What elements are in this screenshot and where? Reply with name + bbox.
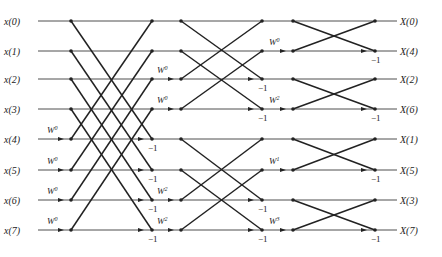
input-label-0: x(0): [3, 16, 21, 28]
node-dot: [373, 77, 377, 81]
twiddle-label: W0: [47, 156, 58, 166]
input-label-3: x(3): [3, 104, 21, 116]
node-dot: [150, 168, 154, 172]
arrow-icon: [138, 198, 144, 202]
twiddle-label: W0: [47, 216, 58, 226]
arrow-icon: [280, 107, 286, 111]
arrow-icon: [168, 198, 174, 202]
output-label-4: X(1): [399, 134, 418, 146]
node-dot: [260, 168, 264, 172]
node-dot: [291, 19, 295, 23]
node-dot: [373, 19, 377, 23]
output-label-7: X(7): [399, 225, 418, 237]
node-dot: [291, 168, 295, 172]
node-dot: [150, 198, 154, 202]
node-dot: [179, 19, 183, 23]
node-dot: [291, 198, 295, 202]
signal-labels: −1−1−1−1−1−1−1−1−1−1−1−1x(0)x(1)x(2)x(3)…: [3, 16, 418, 245]
fft-flow-graph: −1−1−1−1−1−1−1−1−1−1−1−1x(0)x(1)x(2)x(3)…: [0, 0, 442, 257]
twiddle-label: W0: [47, 125, 58, 135]
arrow-icon: [248, 228, 254, 232]
node-dot: [260, 228, 264, 232]
arrow-icon: [138, 228, 144, 232]
node-dot: [291, 137, 295, 141]
node-dot: [373, 137, 377, 141]
node-dot: [373, 198, 377, 202]
node-dot: [260, 137, 264, 141]
node-dot: [373, 228, 377, 232]
node-dot: [69, 19, 73, 23]
negation-label: −1: [148, 143, 158, 153]
twiddle-label: W0: [47, 186, 58, 196]
node-dot: [179, 107, 183, 111]
output-label-3: X(6): [399, 104, 418, 116]
negation-label: −1: [371, 113, 381, 123]
node-dot: [69, 198, 73, 202]
negation-label: −1: [258, 83, 268, 93]
node-dot: [69, 107, 73, 111]
twiddle-label: W2: [157, 216, 168, 226]
output-label-2: X(2): [399, 74, 418, 86]
node-dot: [260, 107, 264, 111]
node-dot: [69, 137, 73, 141]
node-dot: [150, 137, 154, 141]
arrow-icon: [138, 137, 144, 141]
node-dot: [150, 77, 154, 81]
node-dot: [373, 49, 377, 53]
arrow-icon: [280, 168, 286, 172]
output-label-6: X(3): [399, 195, 418, 207]
arrow-icon: [58, 228, 64, 232]
arrow-icon: [168, 77, 174, 81]
negation-label: −1: [148, 174, 158, 184]
node-dot: [260, 198, 264, 202]
arrow-icon: [248, 107, 254, 111]
node-dot: [69, 77, 73, 81]
input-label-1: x(1): [3, 46, 21, 58]
input-label-6: x(6): [3, 195, 21, 207]
twiddle-label: W0: [269, 37, 280, 47]
arrow-icon: [168, 107, 174, 111]
node-dot: [291, 49, 295, 53]
twiddle-label: W0: [157, 95, 168, 105]
arrow-icon: [280, 228, 286, 232]
node-dot: [291, 228, 295, 232]
input-label-4: x(4): [3, 134, 21, 146]
node-dot: [179, 198, 183, 202]
arrow-icon: [58, 168, 64, 172]
arrow-icon: [58, 137, 64, 141]
node-dot: [69, 168, 73, 172]
node-dot: [373, 168, 377, 172]
twiddle-label: W0: [157, 65, 168, 75]
node-dot: [260, 49, 264, 53]
arrow-icon: [138, 168, 144, 172]
negation-label: −1: [148, 234, 158, 244]
negation-label: −1: [371, 174, 381, 184]
input-label-2: x(2): [3, 74, 21, 86]
node-dot: [260, 19, 264, 23]
negation-label: −1: [371, 234, 381, 244]
twiddle-label: W2: [157, 186, 168, 196]
node-dot: [179, 49, 183, 53]
node-dot: [291, 107, 295, 111]
twiddle-label: W2: [269, 95, 280, 105]
node-dot: [150, 228, 154, 232]
node-dot: [69, 228, 73, 232]
node-dot: [150, 107, 154, 111]
output-label-5: X(5): [399, 165, 418, 177]
output-label-0: X(0): [399, 16, 418, 28]
arrow-icon: [361, 49, 367, 53]
output-label-1: X(4): [399, 46, 418, 58]
arrow-icon: [361, 168, 367, 172]
negation-label: −1: [148, 204, 158, 214]
node-dot: [260, 77, 264, 81]
butterfly-crossings: [71, 21, 375, 230]
negation-label: −1: [371, 55, 381, 65]
node-dot: [179, 137, 183, 141]
twiddle-label: W3: [269, 216, 280, 226]
arrow-icon: [58, 198, 64, 202]
input-label-7: x(7): [3, 225, 21, 237]
node-dot: [179, 228, 183, 232]
node-dot: [69, 49, 73, 53]
node-dot: [373, 107, 377, 111]
node-dot: [150, 49, 154, 53]
